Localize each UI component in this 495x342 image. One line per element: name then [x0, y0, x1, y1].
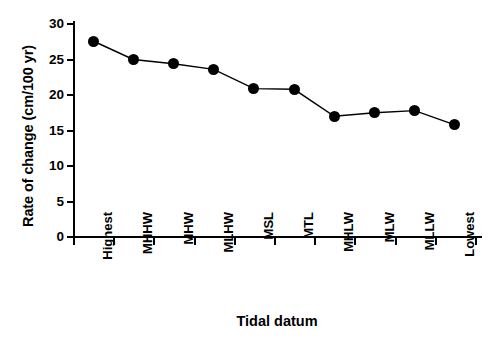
- data-point-marker: [369, 107, 380, 118]
- y-axis-tick-label: 30: [30, 17, 64, 31]
- data-point-marker: [168, 58, 179, 69]
- x-axis-tick-label: MHHW: [140, 212, 156, 302]
- x-axis-tick-label: MLW: [382, 212, 398, 302]
- data-point-marker: [208, 64, 219, 75]
- y-axis-tick-label: 15: [30, 124, 64, 138]
- x-axis-tick-label: Highest: [100, 212, 116, 302]
- y-axis-tick: [67, 94, 74, 96]
- x-axis-tick-label: Lowest: [462, 212, 478, 302]
- x-axis-title: Tidal datum: [0, 313, 495, 329]
- y-axis-tick-label: 25: [30, 53, 64, 67]
- data-point-marker: [289, 84, 300, 95]
- x-axis-tick-label: MHLW: [341, 212, 357, 302]
- data-point-marker: [329, 111, 340, 122]
- y-axis-tick: [67, 23, 74, 25]
- x-axis-tick-label: MTL: [301, 212, 317, 302]
- y-axis-tick-label: 10: [30, 159, 64, 173]
- x-axis-tick-label: MLHW: [221, 212, 237, 302]
- chart-figure: Rate of change (cm/100 yr) 051015202530 …: [0, 0, 495, 342]
- y-axis-tick: [67, 130, 74, 132]
- y-axis-tick-label: 5: [30, 195, 64, 209]
- x-axis-tick: [73, 238, 75, 245]
- y-axis-tick: [67, 201, 74, 203]
- y-axis-tick: [67, 59, 74, 61]
- data-point-marker: [88, 36, 99, 47]
- y-axis-tick-label: 0: [30, 230, 64, 244]
- data-point-marker: [248, 83, 259, 94]
- y-axis-tick-labels: 051015202530: [28, 0, 64, 342]
- data-point-marker: [128, 54, 139, 65]
- y-axis-tick: [67, 165, 74, 167]
- x-axis-tick-label: MLLW: [422, 212, 438, 302]
- y-axis-tick-label: 20: [30, 88, 64, 102]
- x-axis-line: [73, 236, 482, 238]
- x-axis-tick-label: MSL: [261, 212, 277, 302]
- x-axis-tick-label: MHW: [181, 212, 197, 302]
- data-point-marker: [449, 119, 460, 130]
- data-point-marker: [409, 105, 420, 116]
